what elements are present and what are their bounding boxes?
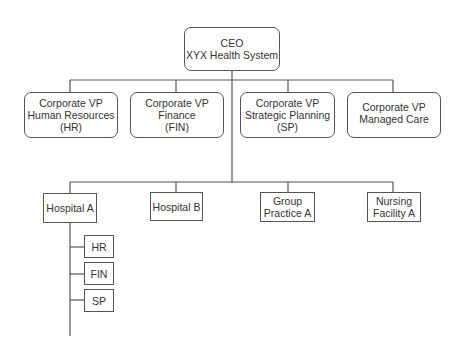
nursing-facility-a-box: Nursing Facility A — [367, 192, 421, 222]
group-practice-a-line-2: Practice A — [264, 207, 311, 219]
vp-sp-line-2: Strategic Planning — [245, 109, 330, 121]
vp-fin-line-3: (FIN) — [165, 121, 189, 133]
group-practice-a-line-1: Group — [273, 195, 302, 207]
ceo-title: CEO — [221, 37, 244, 49]
vp-fin-box: Corporate VP Finance (FIN) — [130, 92, 224, 138]
hospital-b-box: Hospital B — [150, 192, 203, 221]
vp-fin-line-2: Finance — [158, 109, 195, 121]
hospital-b-label: Hospital B — [153, 201, 201, 213]
nursing-facility-a-line-2: Facility A — [373, 207, 415, 219]
vp-hr-line-3: (HR) — [60, 121, 82, 133]
dept-fin-label: FIN — [91, 268, 108, 280]
vp-hr-box: Corporate VP Human Resources (HR) — [24, 92, 118, 138]
vp-sp-line-3: (SP) — [277, 121, 298, 133]
vp-mc-line-2: Managed Care — [359, 113, 428, 125]
vp-fin-line-1: Corporate VP — [145, 97, 209, 109]
nursing-facility-a-line-1: Nursing — [376, 195, 412, 207]
dept-sp-label: SP — [92, 295, 106, 307]
vp-sp-line-1: Corporate VP — [256, 97, 320, 109]
vp-sp-box: Corporate VP Strategic Planning (SP) — [240, 92, 335, 138]
group-practice-a-box: Group Practice A — [260, 192, 315, 222]
vp-hr-line-2: Human Resources — [28, 109, 115, 121]
vp-mc-line-1: Corporate VP — [362, 101, 426, 113]
ceo-box: CEO XYX Health System — [184, 27, 280, 71]
vp-hr-line-1: Corporate VP — [39, 97, 103, 109]
dept-sp-box: SP — [84, 289, 114, 312]
hospital-a-label: Hospital A — [46, 202, 93, 214]
dept-hr-label: HR — [91, 241, 106, 253]
hospital-a-box: Hospital A — [43, 193, 97, 223]
ceo-org: XYX Health System — [186, 49, 278, 61]
dept-fin-box: FIN — [84, 262, 114, 285]
org-chart: CEO XYX Health System Corporate VP Human… — [0, 0, 460, 349]
dept-hr-box: HR — [84, 235, 114, 258]
vp-mc-box: Corporate VP Managed Care — [347, 92, 441, 138]
